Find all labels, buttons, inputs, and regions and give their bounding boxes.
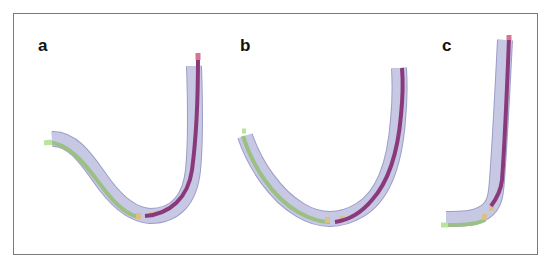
joint-marker-icon bbox=[482, 214, 487, 220]
panel-a-device bbox=[44, 53, 198, 219]
joint-marker-icon bbox=[136, 213, 141, 219]
joint-marker-icon bbox=[325, 217, 330, 223]
panel-b-device bbox=[242, 68, 403, 223]
catheter-diagram bbox=[0, 0, 551, 268]
panel-c-device bbox=[441, 35, 509, 225]
